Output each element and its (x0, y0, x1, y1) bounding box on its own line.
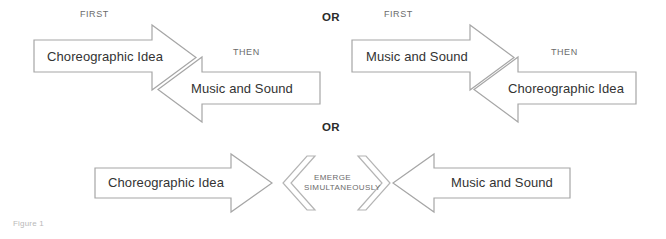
connector-or-top: OR (322, 11, 340, 23)
node-label-option1-step1: Choreographic Idea (47, 49, 163, 64)
sequence-label-option1-then: THEN (233, 47, 260, 57)
diagram-canvas (0, 0, 666, 239)
node-label-option3-left: Choreographic Idea (108, 175, 224, 190)
sequence-label-option2-first: FIRST (384, 9, 413, 19)
node-label-option2-step1: Music and Sound (366, 49, 468, 64)
sequence-label-option2-then: THEN (551, 47, 578, 57)
connector-or-middle: OR (322, 121, 340, 133)
node-label-option1-step2: Music and Sound (191, 81, 293, 96)
node-label-option2-step2: Choreographic Idea (508, 81, 624, 96)
figure-caption: Figure 1 (13, 219, 44, 228)
node-label-option3-right: Music and Sound (451, 175, 553, 190)
figure-container: FIRST Choreographic Idea THEN Music and … (0, 0, 666, 239)
sequence-label-option1-first: FIRST (80, 9, 109, 19)
relation-label-emerge-line2: SIMULTANEOUSLY (304, 182, 361, 193)
